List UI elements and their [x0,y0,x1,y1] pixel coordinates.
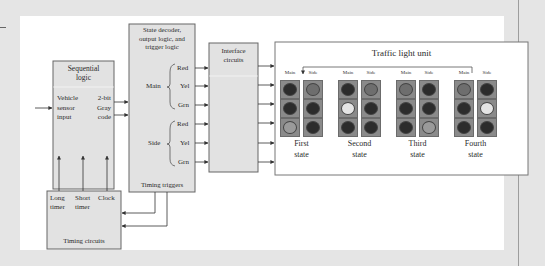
side-signal-label: Side [477,70,497,75]
lamp-green-icon [399,121,413,134]
lamp-cell [339,119,357,136]
lamp-cell [362,119,380,136]
main-signal-head [338,80,358,137]
lamp-yellow-icon [283,102,297,115]
side-signal-head [419,80,439,137]
side-signal-head [303,80,323,137]
lamp-cell [281,100,299,117]
side-signal-head [477,80,497,137]
lamp-cell [362,81,380,98]
lamp-cell [397,119,415,136]
state-label: Secondstate [330,138,389,160]
lamp-cell [339,81,357,98]
lamp-green-icon [364,121,378,134]
state-label: Thirdstate [388,138,447,160]
side-signal-head [361,80,381,137]
lamp-cell [420,100,438,117]
side-signal-label: Side [303,70,323,75]
main-signal-label: Main [338,70,358,75]
lamp-cell [304,119,322,136]
lamp-cell [455,100,473,117]
lamp-cell [478,119,496,136]
lamp-yellow-icon [399,102,413,115]
lamp-cell [420,119,438,136]
lamp-cell [455,81,473,98]
main-signal-head [454,80,474,137]
lamp-red-icon [341,83,355,96]
lamp-cell [281,81,299,98]
lamp-yellow-icon [480,102,494,115]
lamp-red-icon [480,83,494,96]
lamp-cell [281,119,299,136]
main-signal-head [396,80,416,137]
lamp-yellow-icon [457,102,471,115]
lamp-green-icon [306,121,320,134]
state-label: Fourthstate [446,138,505,160]
lamp-red-icon [306,83,320,96]
lamp-red-icon [399,83,413,96]
lamp-yellow-icon [341,102,355,115]
lamp-yellow-icon [422,102,436,115]
lamp-cell [455,119,473,136]
lamp-cell [478,81,496,98]
lamp-cell [420,81,438,98]
lamp-cell [339,100,357,117]
main-signal-head [280,80,300,137]
lamp-cell [304,81,322,98]
side-signal-label: Side [361,70,381,75]
lamp-yellow-icon [306,102,320,115]
lamp-cell [478,100,496,117]
lamp-green-icon [341,121,355,134]
lamp-green-icon [422,121,436,134]
lamp-green-icon [480,121,494,134]
side-signal-label: Side [419,70,439,75]
lamp-cell [362,100,380,117]
main-signal-label: Main [396,70,416,75]
lamp-green-icon [457,121,471,134]
main-signal-label: Main [454,70,474,75]
lamp-red-icon [457,83,471,96]
lamp-cell [304,100,322,117]
main-signal-label: Main [280,70,300,75]
lamp-yellow-icon [364,102,378,115]
traffic-states: MainSideFirststateMainSideSecondstateMai… [0,0,545,266]
state-label: Firststate [272,138,331,160]
lamp-red-icon [283,83,297,96]
lamp-green-icon [283,121,297,134]
lamp-cell [397,81,415,98]
lamp-red-icon [422,83,436,96]
lamp-cell [397,100,415,117]
lamp-red-icon [364,83,378,96]
